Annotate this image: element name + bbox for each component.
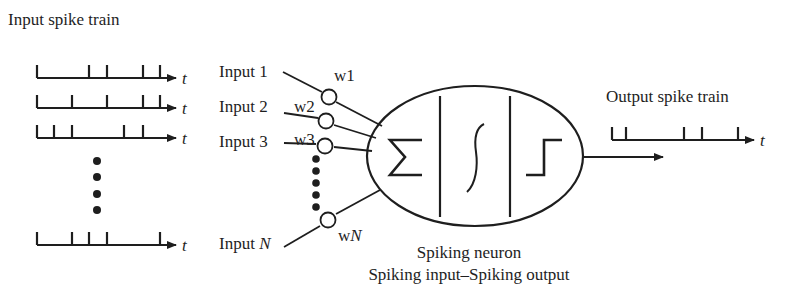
summation-icon <box>390 140 422 175</box>
weight-node-n <box>321 213 336 228</box>
output-train-axis: t <box>612 127 766 150</box>
weight-n-label: wN <box>338 226 363 245</box>
weight-2-label: w2 <box>294 97 315 116</box>
weight-1-label: w1 <box>334 66 355 85</box>
input-2-label: Input 2 <box>219 97 268 116</box>
input-train-3: t <box>37 125 188 148</box>
input-n-label: Input N <box>219 234 272 253</box>
input-train-N: t <box>37 232 188 255</box>
weight-nodes <box>318 90 337 228</box>
ellipsis-dots-left <box>93 157 101 214</box>
output-spike-train: t <box>612 127 766 150</box>
time-axis-label: t <box>182 69 188 88</box>
input-spike-trains: tttt <box>37 65 188 255</box>
input-1-label: Input 1 <box>219 62 268 81</box>
ellipsis-dots-middle <box>312 155 320 211</box>
neuron-body <box>367 86 583 226</box>
time-axis-label: t <box>182 129 188 148</box>
weight-node-3 <box>318 139 333 154</box>
input-spike-train-title: Input spike train <box>8 10 120 29</box>
time-axis-label: t <box>182 99 188 118</box>
output-spike-train-title: Output spike train <box>606 87 729 106</box>
time-axis-label: t <box>182 236 188 255</box>
time-axis-label: t <box>760 131 766 150</box>
input-train-1: t <box>37 65 188 88</box>
spiking-neuron-diagram: Input spike train tttt Input 1 Input 2 I… <box>0 0 791 303</box>
input-3-label: Input 3 <box>219 132 268 151</box>
neuron-label: Spiking neuron <box>417 243 522 262</box>
weight-3-label: w3 <box>294 130 315 149</box>
weight-node-2 <box>319 114 334 129</box>
neuron-subtitle: Spiking input–Spiking output <box>368 265 569 284</box>
step-function-icon <box>526 140 562 175</box>
input-train-2: t <box>37 95 188 118</box>
sigmoid-icon <box>467 124 484 192</box>
weight-node-1 <box>322 90 337 105</box>
